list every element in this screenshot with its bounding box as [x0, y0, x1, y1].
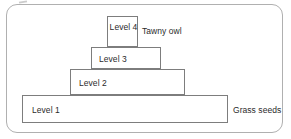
pyramid-tier-label-level-3: Level 3: [99, 54, 127, 64]
pyramid-tier-label-level-2: Level 2: [79, 78, 107, 88]
pyramid-tier-level-2: Level 2: [70, 69, 185, 95]
pyramid-tier-level-3: Level 3: [91, 47, 161, 69]
pyramid-figure: Level 4 Level 3 Level 2 Level 1 Tawny ow…: [0, 0, 291, 139]
energy-pyramid: Level 4 Level 3 Level 2 Level 1 Tawny ow…: [0, 0, 291, 139]
annotation-top-consumer: Tawny owl: [142, 26, 182, 36]
pyramid-tier-level-1: Level 1: [22, 95, 228, 123]
pyramid-tier-label-level-4: Level 4: [108, 22, 139, 32]
pyramid-tier-label-level-1: Level 1: [32, 105, 60, 115]
annotation-producer: Grass seeds: [233, 105, 281, 115]
pyramid-tier-level-4: Level 4: [107, 16, 138, 47]
